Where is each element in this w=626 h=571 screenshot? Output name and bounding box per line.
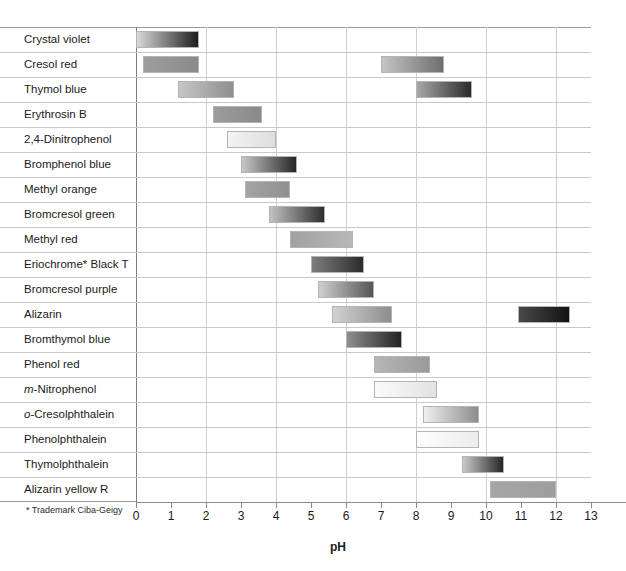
x-axis-tick	[136, 502, 137, 508]
gridline-horizontal	[0, 352, 591, 353]
x-axis-tick-label: 9	[439, 509, 463, 523]
x-axis-tick	[486, 502, 487, 508]
gridline-horizontal	[0, 227, 591, 228]
indicator-name-text: Bromphenol blue	[24, 159, 111, 171]
ph-range-band	[136, 31, 199, 48]
x-axis-tick-label: 0	[124, 509, 148, 523]
x-axis-tick	[451, 502, 452, 508]
indicator-label: Bromcresol purple	[0, 277, 136, 302]
indicator-name-text: -Cresolphthalein	[30, 409, 114, 421]
indicator-name-text: Phenolphthalein	[24, 434, 107, 446]
x-axis-tick	[556, 502, 557, 508]
indicator-name-text: Phenol red	[24, 359, 80, 371]
ph-range-band	[318, 281, 374, 298]
x-axis-tick-label: 7	[369, 509, 393, 523]
gridline-horizontal	[0, 102, 591, 103]
indicator-name-text: Methyl red	[24, 234, 78, 246]
indicator-name-text: Methyl orange	[24, 184, 97, 196]
x-axis-tick	[416, 502, 417, 508]
gridline-horizontal	[0, 127, 591, 128]
gridline-vertical	[136, 27, 137, 502]
gridline-vertical	[206, 27, 207, 502]
gridline-horizontal	[0, 277, 591, 278]
ph-range-band	[518, 306, 571, 323]
indicator-name-text: Alizarin yellow R	[24, 484, 108, 496]
footnote: * Trademark Ciba-Geigy	[26, 505, 123, 515]
gridline-horizontal	[0, 452, 591, 453]
ph-range-band	[245, 181, 291, 198]
ph-range-band	[416, 431, 479, 448]
gridline-vertical	[486, 27, 487, 502]
gridline-horizontal	[0, 77, 591, 78]
x-axis-tick-label: 1	[159, 509, 183, 523]
x-axis-tick-label: 5	[299, 509, 323, 523]
indicator-name-text: Bromthymol blue	[24, 334, 110, 346]
indicator-label: Thymolphthalein	[0, 452, 136, 477]
ph-range-band	[227, 131, 276, 148]
gridline-horizontal	[0, 477, 591, 478]
x-axis-tick	[276, 502, 277, 508]
ph-indicator-chart: Crystal violetCresol redThymol blueEryth…	[0, 0, 626, 571]
ph-range-band	[290, 231, 353, 248]
x-axis-tick-label: 12	[544, 509, 568, 523]
gridline-horizontal	[0, 52, 591, 53]
x-axis-title: pH	[330, 540, 346, 554]
x-axis-tick	[171, 502, 172, 508]
ph-range-band	[143, 56, 199, 73]
indicator-label: m-Nitrophenol	[0, 377, 136, 402]
plot-area	[136, 27, 591, 502]
x-axis-tick-label: 10	[474, 509, 498, 523]
x-axis-tick	[346, 502, 347, 508]
gridline-horizontal	[0, 402, 591, 403]
indicator-label: Alizarin yellow R	[0, 477, 136, 502]
x-axis-tick-label: 6	[334, 509, 358, 523]
gridline-horizontal	[0, 252, 591, 253]
gridline-horizontal	[0, 377, 591, 378]
ph-range-band	[416, 81, 472, 98]
indicator-label: Crystal violet	[0, 27, 136, 52]
indicator-name-text: Eriochrome* Black T	[24, 259, 129, 271]
indicator-label: Thymol blue	[0, 77, 136, 102]
ph-range-band	[346, 331, 402, 348]
indicator-label: Methyl orange	[0, 177, 136, 202]
x-axis-tick	[521, 502, 522, 508]
italic-locant: m	[24, 384, 34, 396]
indicator-label: Bromthymol blue	[0, 327, 136, 352]
gridline-vertical	[556, 27, 557, 502]
indicator-label-column: Crystal violetCresol redThymol blueEryth…	[0, 0, 136, 571]
indicator-name-text: Alizarin	[24, 309, 62, 321]
indicator-label: Phenol red	[0, 352, 136, 377]
indicator-label: Cresol red	[0, 52, 136, 77]
indicator-label: Bromphenol blue	[0, 152, 136, 177]
indicator-name-text: Erythrosin B	[24, 109, 87, 121]
x-axis-tick-label: 13	[579, 509, 603, 523]
ph-range-band	[374, 381, 437, 398]
x-axis-tick	[381, 502, 382, 508]
gridline-horizontal	[0, 427, 591, 428]
ph-range-band	[269, 206, 325, 223]
x-axis-tick-label: 3	[229, 509, 253, 523]
indicator-name-text: Cresol red	[24, 59, 77, 71]
gridline-horizontal	[0, 202, 591, 203]
gridline-horizontal	[0, 152, 591, 153]
ph-range-band	[423, 406, 479, 423]
gridline-horizontal	[0, 177, 591, 178]
ph-range-band	[241, 156, 297, 173]
x-axis-tick	[311, 502, 312, 508]
ph-range-band	[332, 306, 392, 323]
x-axis-tick	[206, 502, 207, 508]
gridline-horizontal	[0, 302, 591, 303]
indicator-label: Bromcresol green	[0, 202, 136, 227]
x-axis-tick	[241, 502, 242, 508]
x-axis-tick-label: 2	[194, 509, 218, 523]
ph-range-band	[462, 456, 504, 473]
x-axis-tick	[591, 502, 592, 508]
x-axis-tick-label: 4	[264, 509, 288, 523]
indicator-name-text: 2,4-Dinitrophenol	[24, 134, 112, 146]
ph-range-band	[490, 481, 557, 498]
ph-range-band	[381, 56, 444, 73]
indicator-label: Eriochrome* Black T	[0, 252, 136, 277]
ph-range-band	[178, 81, 234, 98]
indicator-name-text: Crystal violet	[24, 34, 90, 46]
indicator-label: Alizarin	[0, 302, 136, 327]
